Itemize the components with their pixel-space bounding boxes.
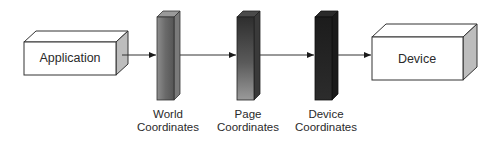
application-box: Application xyxy=(24,31,128,75)
device-coords-label-line2: Coordinates xyxy=(295,121,357,133)
world-label-line2: Coordinates xyxy=(137,121,199,133)
page-coordinates-bar xyxy=(237,11,260,100)
device-label: Device xyxy=(398,52,436,66)
page-label-line1: Page xyxy=(235,108,262,120)
world-coordinates-bar xyxy=(157,11,180,100)
device-box: Device xyxy=(372,24,477,80)
device-coordinates-bar xyxy=(315,11,338,100)
coordinate-pipeline-diagram: Application World Coordinates Page Coord… xyxy=(0,0,499,141)
world-label-line1: World xyxy=(153,108,183,120)
device-coords-label-line1: Device xyxy=(308,108,343,120)
page-label-line2: Coordinates xyxy=(217,121,279,133)
application-label: Application xyxy=(39,51,100,65)
